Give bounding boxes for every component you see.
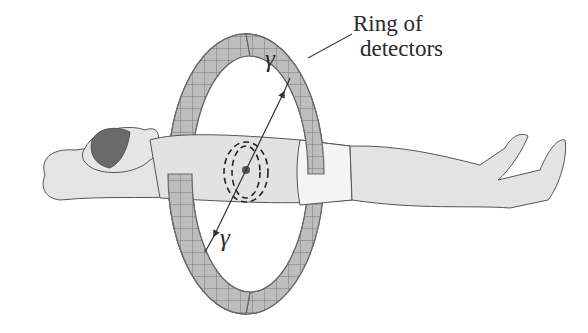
ring-label-line2: detectors <box>360 37 443 60</box>
gamma-label-top: γ <box>265 46 275 71</box>
label-leader-line <box>308 34 352 58</box>
ring-label-line1: Ring of <box>353 12 423 35</box>
gamma-label-bottom: γ <box>220 225 230 250</box>
pet-scanner-diagram <box>0 0 588 333</box>
